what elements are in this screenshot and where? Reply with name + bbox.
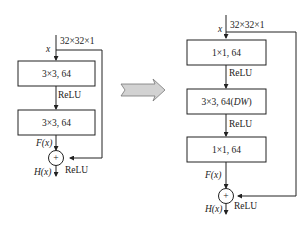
left-relu-out: ReLU bbox=[65, 165, 88, 175]
right-input-dim: 32×32×1 bbox=[230, 20, 265, 30]
left-input-dim: 32×32×1 bbox=[60, 36, 95, 46]
right-hx-label: H(x) bbox=[204, 204, 222, 215]
right-input-label: x bbox=[217, 24, 223, 34]
right-layer-3-label: 1×1, 64 bbox=[212, 145, 241, 155]
left-fx-label: F(x) bbox=[35, 138, 52, 149]
left-layer-2-label: 3×3, 64 bbox=[42, 118, 71, 128]
right-relu-2: ReLU bbox=[229, 119, 252, 129]
left-add-symbol: + bbox=[53, 153, 58, 163]
right-add-symbol: + bbox=[223, 191, 228, 201]
left-input-label: x bbox=[45, 44, 51, 54]
left-layer-1-label: 3×3, 64 bbox=[42, 69, 71, 79]
left-relu-1: ReLU bbox=[58, 90, 81, 100]
left-residual-block: x 32×32×1 3×3, 64 ReLU 3×3, 64 F(x) + H(… bbox=[18, 35, 102, 178]
right-residual-block: x 32×32×1 1×1, 64 ReLU 3×3, 64(DW) ReLU … bbox=[187, 15, 296, 215]
right-fx-label: F(x) bbox=[204, 170, 221, 181]
transform-arrow-icon bbox=[121, 79, 165, 101]
right-relu-out: ReLU bbox=[234, 201, 257, 211]
left-hx-label: H(x) bbox=[33, 167, 51, 178]
right-relu-1: ReLU bbox=[229, 68, 252, 78]
right-layer-1-label: 1×1, 64 bbox=[212, 48, 241, 58]
right-layer-2-label: 3×3, 64(DW) bbox=[201, 97, 251, 108]
